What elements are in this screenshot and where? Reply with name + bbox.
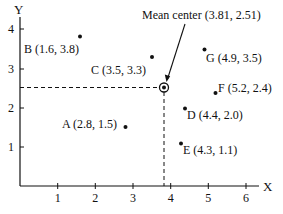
x-axis-label: X [263,179,273,194]
svg-text:6: 6 [243,191,249,205]
point-a [124,125,128,129]
label-g: G (4.9, 3.5) [206,51,262,65]
point-labels: A (2.8, 1.5) B (1.6, 3.8) C (3.5, 3.3) D… [24,42,272,157]
svg-text:5: 5 [205,191,211,205]
y-tick-labels: 1 2 3 4 [8,22,14,154]
y-axis-label: Y [14,2,24,17]
svg-text:3: 3 [8,62,14,76]
mean-center-marker [160,83,169,92]
mean-center-arrow [165,24,185,82]
svg-text:1: 1 [55,191,61,205]
point-b [78,35,82,39]
mean-center-label: Mean center (3.81, 2.51) [142,8,261,22]
svg-text:3: 3 [130,191,136,205]
svg-text:1: 1 [8,140,14,154]
point-c [150,55,154,59]
label-e: E (4.3, 1.1) [183,143,237,157]
svg-text:4: 4 [168,191,174,205]
label-d: D (4.4, 2.0) [187,108,243,122]
x-tick-labels: 1 2 3 4 5 6 [55,191,249,205]
svg-text:2: 2 [92,191,98,205]
svg-text:4: 4 [8,22,14,36]
label-c: C (3.5, 3.3) [91,63,146,77]
scatter-diagram: Y X 1 2 3 4 5 6 1 2 3 4 [0,0,283,214]
label-a: A (2.8, 1.5) [62,117,117,131]
label-b: B (1.6, 3.8) [24,42,79,56]
svg-text:2: 2 [8,101,14,115]
label-f: F (5.2, 2.4) [218,81,272,95]
point-f [214,91,218,95]
